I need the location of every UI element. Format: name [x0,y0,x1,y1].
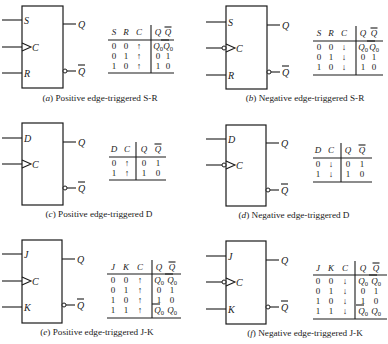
table-row: 01↓01 [317,52,377,62]
clock-inversion-bubble-icon [222,163,226,167]
flip-flop-diagram-svg: SCRQQSRCQQ00↑Q0Q001↑0110↑10(a) Positive … [0,0,388,344]
pin-label-q: Q [77,254,85,265]
panel-d: DCQQDCQQ0↓011↓10(d) Negative edge-trigge… [206,125,372,220]
table-row: 11↓Q0Q0 [316,305,381,317]
column-header-qbar: Q [373,263,380,273]
table-cell: 1 [112,168,117,178]
caption-f: (f) Negative edge-triggered J-K [247,328,363,338]
rising-edge-arrow-icon: ↑ [137,41,142,51]
column-header-c: C [137,262,144,272]
truth-table: SRCQQ00↓Q0Q001↓0110↓10 [313,26,383,75]
table-cell: 1 [360,159,365,169]
column-header-c: C [124,144,131,154]
column-header-d: D [110,144,118,154]
truth-table: JKCQQ00↑Q0Q001↑0110↑1011↑Q0Q0 [107,260,181,318]
column-header-q: Q [155,27,162,37]
table-cell: 0 [374,296,379,306]
column-header-r: R [327,28,334,38]
column-header-c: C [328,145,335,155]
falling-edge-arrow-icon: ↓ [342,42,347,52]
falling-edge-arrow-icon: ↓ [343,276,348,286]
table-cell: 1 [329,306,334,316]
pin-label-q: Q [78,19,86,30]
falling-edge-arrow-icon: ↓ [342,62,347,72]
table-row: 10↓10 [316,296,379,306]
table-cell: 0 [142,158,147,168]
table-cell: Q0 [154,305,164,316]
column-header-j: J [316,263,321,273]
panel-e: JCKQQJKCQQ00↑Q0Q001↑0110↑1011↑Q0Q0(e) Po… [2,240,181,337]
table-cell: 0 [317,52,322,62]
pin-label-clock: C [236,160,243,171]
table-cell: 0 [329,62,334,72]
table-cell: 0 [316,286,321,296]
clock-inversion-bubble-icon [222,46,226,50]
table-cell: 1 [124,51,129,61]
column-header-k: K [122,262,130,272]
table-cell: 0 [156,51,161,61]
table-cell: 1 [317,62,322,72]
table-cell: 0 [124,41,129,51]
column-header-s: S [112,27,117,37]
pin-label-j: J [228,251,233,262]
falling-edge-arrow-icon: ↓ [343,286,348,296]
table-cell: 0 [170,295,175,305]
falling-edge-arrow-icon: ↓ [342,52,347,62]
table-cell: 0 [360,169,365,179]
column-header-q: Q [345,145,352,155]
table-cell: 0 [124,61,129,71]
table-cell: 1 [316,296,321,306]
output-inversion-bubble-icon [267,70,271,74]
column-header-r: R [122,27,129,37]
table-cell: 0 [124,275,129,285]
table-cell: 0 [329,276,334,286]
table-cell: 1 [142,168,147,178]
table-row: 00↓Q0Q0 [317,41,379,53]
pin-label-clock: C [32,276,39,287]
pin-label-clock: C [236,277,243,288]
table-cell: 1 [316,169,321,179]
caption-c: (c) Positive edge-triggered D [46,209,153,219]
panel-f: JCKQQJKCQQ00↓Q0Q001↓0110↓1011↓Q0Q0(f) Ne… [206,241,387,338]
caption-e: (e) Positive edge-triggered J-K [40,327,154,337]
truth-table: SRCQQ00↑Q0Q001↑0110↑10 [108,25,174,73]
rising-edge-arrow-icon: ↑ [138,275,143,285]
rising-edge-arrow-icon: ↑ [137,51,142,61]
table-row: 01↓01 [316,286,379,296]
pin-label-d: D [23,133,32,144]
table-cell: 1 [156,61,161,71]
table-row: 01↑01 [112,51,171,61]
table-cell: 0 [361,286,366,296]
table-row: 10↑10 [112,61,171,71]
table-cell: 0 [166,61,171,71]
pin-label-q: Q [281,255,289,266]
table-cell: 0 [111,275,116,285]
rising-edge-arrow-icon: ↑ [138,295,143,305]
rising-edge-arrow-icon: ↑ [125,168,130,178]
falling-edge-arrow-icon: ↓ [343,296,348,306]
pin-label-k: K [23,302,32,313]
caption-d: (d) Negative edge-triggered D [239,210,350,220]
table-cell: 1 [372,52,377,62]
output-inversion-bubble-icon [62,303,66,307]
table-cell: 0 [112,41,117,51]
column-header-s: S [317,28,322,38]
pin-label-qbar: Q [77,300,85,311]
falling-edge-arrow-icon: ↓ [329,169,334,179]
pin-label-j: J [24,249,29,260]
falling-edge-arrow-icon: ↓ [329,159,334,169]
table-cell: 0 [156,168,161,178]
table-cell: 0 [124,295,129,305]
table-cell: 1 [170,285,175,295]
pin-label-r: R [227,70,234,81]
rising-edge-arrow-icon: ↑ [137,61,142,71]
table-cell: 0 [316,276,321,286]
falling-edge-arrow-icon: ↓ [343,306,348,316]
rising-edge-arrow-icon: ↑ [138,285,143,295]
column-header-qbar: Q [169,262,176,272]
table-cell: 1 [374,286,379,296]
column-header-j: J [111,262,116,272]
pin-label-clock: C [32,159,39,170]
pin-label-d: D [227,134,236,145]
pin-label-clock: C [236,43,243,54]
